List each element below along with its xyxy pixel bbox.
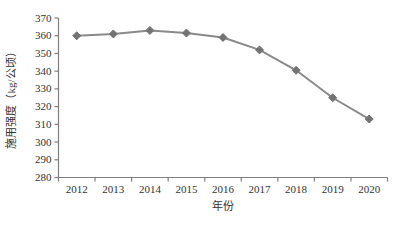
- data-point-marker: [256, 46, 264, 54]
- data-point-marker: [182, 29, 190, 37]
- data-point-marker: [146, 26, 154, 34]
- x-tick-label: 2013: [102, 183, 125, 195]
- plot-area: 2802903003103203303403503603702012201320…: [35, 12, 388, 195]
- y-tick-label: 340: [35, 65, 52, 77]
- data-point-marker: [109, 30, 117, 38]
- x-tick-label: 2019: [322, 183, 345, 195]
- data-point-marker: [219, 33, 227, 41]
- x-axis-title: 年份: [212, 199, 234, 212]
- x-tick-label: 2017: [249, 183, 272, 195]
- line-chart: 2802903003103203303403503603702012201320…: [0, 0, 398, 228]
- chart-canvas: 2802903003103203303403503603702012201320…: [0, 0, 398, 228]
- y-axis-title: 施用强度（kg/公顷）: [4, 46, 17, 148]
- x-tick-label: 2020: [358, 183, 381, 195]
- y-tick-label: 290: [35, 153, 52, 165]
- data-point-marker: [73, 32, 81, 40]
- y-tick-label: 360: [35, 29, 52, 41]
- y-tick-label: 370: [35, 12, 52, 24]
- y-tick-label: 280: [35, 171, 52, 183]
- x-tick-label: 2015: [175, 183, 198, 195]
- y-tick-label: 320: [35, 100, 52, 112]
- x-tick-label: 2018: [285, 183, 308, 195]
- y-tick-label: 300: [35, 136, 52, 148]
- y-tick-label: 310: [35, 118, 52, 130]
- x-tick-label: 2012: [66, 183, 88, 195]
- y-tick-label: 330: [35, 82, 52, 94]
- y-tick-label: 350: [35, 47, 52, 59]
- data-point-marker: [365, 115, 373, 123]
- x-tick-label: 2014: [139, 183, 162, 195]
- series-line: [77, 30, 369, 119]
- x-tick-label: 2016: [212, 183, 235, 195]
